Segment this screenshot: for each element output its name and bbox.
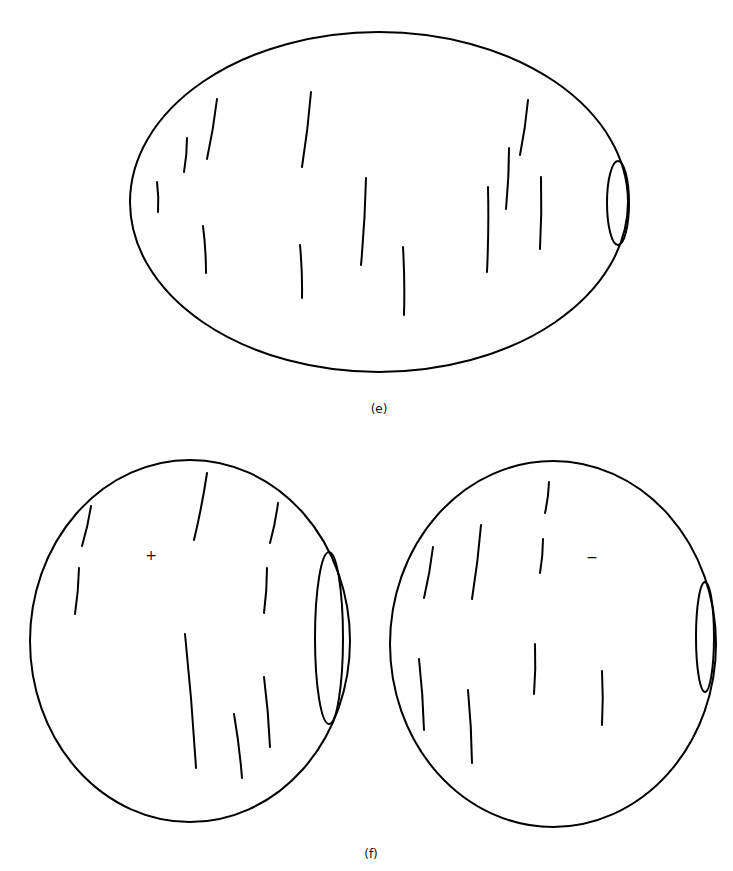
surface-stroke: [264, 677, 270, 747]
surface-stroke: [361, 178, 366, 265]
surface-stroke: [234, 714, 242, 778]
diagram-canvas: (e) + − (f): [0, 0, 733, 871]
surface-stroke: [472, 525, 481, 599]
surface-stroke: [270, 503, 278, 543]
surface-stroke: [419, 659, 424, 730]
surface-stroke: [540, 177, 541, 249]
panel-f-label: (f): [364, 847, 378, 861]
outer-outline: [130, 32, 628, 372]
surface-stroke: [545, 482, 549, 513]
surface-stroke: [468, 690, 472, 763]
panel-e-label: (e): [371, 402, 388, 416]
pole-ellipse: [696, 582, 714, 692]
pole-ellipse: [315, 552, 343, 724]
surface-stroke: [184, 138, 187, 172]
surface-stroke: [540, 539, 543, 573]
surface-stroke: [157, 182, 158, 212]
panel-f-left-sphere: [30, 460, 350, 822]
surface-stroke: [403, 247, 404, 315]
surface-stroke: [302, 92, 311, 167]
pole-ellipse: [607, 161, 629, 245]
plus-sign: +: [145, 547, 157, 563]
surface-stroke: [82, 506, 91, 546]
surface-stroke: [602, 671, 603, 725]
minus-sign: −: [586, 549, 598, 565]
surface-stroke: [264, 568, 267, 613]
outer-outline: [390, 461, 716, 827]
surface-stroke: [75, 568, 79, 614]
surface-stroke: [520, 100, 528, 155]
surface-stroke: [207, 99, 217, 159]
surface-stroke: [300, 245, 302, 298]
surface-stroke: [424, 547, 433, 598]
panel-f-right-sphere: [390, 461, 716, 827]
panel-e-ellipsoid: [130, 32, 629, 372]
surface-stroke: [534, 644, 535, 694]
surface-stroke: [203, 226, 206, 273]
outer-outline: [30, 460, 350, 822]
surface-stroke: [185, 634, 196, 768]
surface-stroke: [487, 187, 488, 272]
surface-stroke: [194, 473, 207, 540]
surface-stroke: [506, 148, 509, 209]
